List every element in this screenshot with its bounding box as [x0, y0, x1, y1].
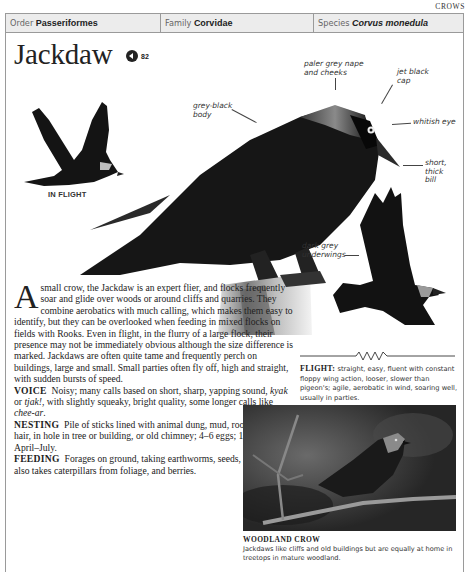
taxonomy-bar: Order Passeriformes Family Corvidae Spec…	[5, 13, 464, 33]
species-value: Corvus monedula	[352, 18, 428, 28]
feeding-label: FEEDING	[14, 453, 60, 464]
page-title: Jackdaw	[14, 38, 112, 71]
voice-text: .	[43, 407, 45, 418]
speaker-icon[interactable]	[126, 50, 138, 62]
family-value: Corvidae	[194, 18, 233, 28]
taxonomy-family: Family Corvidae	[161, 14, 314, 32]
order-value: Passeriformes	[36, 18, 98, 28]
photo-caption-title: WOODLAND CROW	[243, 535, 320, 544]
taxonomy-species: Species Corvus monedula	[314, 14, 463, 32]
flying-jackdaw-underside-illustration	[325, 185, 450, 325]
voice-call: kyak	[270, 385, 288, 396]
annotation-body: grey-black body	[193, 102, 232, 119]
annotation-cap: jet black cap	[397, 68, 429, 85]
order-key: Order	[10, 18, 33, 28]
voice-call: chee-ar	[14, 407, 43, 418]
section-tag: CROWS	[435, 2, 465, 11]
flight-pattern-icon	[300, 350, 455, 362]
voice-text: or	[14, 396, 24, 407]
drop-cap: A	[14, 283, 39, 310]
flight-description: FLIGHT: straight, easy, fluent with cons…	[300, 364, 460, 403]
annotation-nape-line2: and cheeks	[304, 69, 364, 78]
nesting-label: NESTING	[14, 419, 59, 430]
leader-line	[335, 78, 336, 90]
woodland-photo	[243, 405, 456, 531]
audio-track[interactable]: 82	[126, 50, 149, 62]
voice-text: , with slightly squeaky, bright quality,…	[42, 396, 273, 407]
annotation-bill: short, thick bill	[425, 159, 447, 185]
annotation-bill-line3: bill	[425, 176, 447, 185]
voice-text: Noisy; many calls based on short, sharp,…	[52, 385, 271, 396]
intro-text: small crow, the Jackdaw is an expert fli…	[14, 282, 293, 384]
annotation-eye: whitish eye	[413, 118, 456, 127]
taxonomy-order: Order Passeriformes	[6, 14, 161, 32]
family-key: Family	[165, 18, 191, 28]
annotation-body-line2: body	[193, 111, 232, 120]
annotation-nape: paler grey nape and cheeks	[304, 60, 364, 77]
intro-paragraph: Asmall crow, the Jackdaw is an expert fl…	[14, 282, 296, 385]
leader-line	[403, 165, 423, 166]
voice-label: VOICE	[14, 385, 47, 396]
flight-label: FLIGHT:	[300, 364, 335, 373]
species-key: Species	[318, 18, 350, 28]
photo-caption-text: Jackdaws like cliffs and old buildings b…	[243, 545, 461, 563]
audio-track-number: 82	[141, 53, 149, 60]
voice-call: tjak!	[24, 396, 42, 407]
woodland-photo-image	[243, 405, 456, 531]
annotation-cap-line2: cap	[397, 77, 429, 86]
